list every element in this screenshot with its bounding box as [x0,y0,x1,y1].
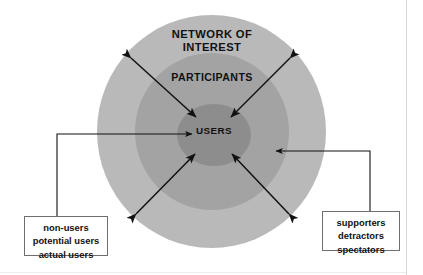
callout-box-right: supporters detractors spectators [322,211,400,251]
callout-left-line-1: non-users [30,221,102,234]
callout-right-line-1: supporters [328,216,394,229]
ring-label-users: USERS [176,126,252,137]
diagram-canvas: NETWORK OF INTEREST PARTICIPANTS USERS [0,0,423,275]
callout-right-line-2: detractors [328,229,394,242]
scan-edge-line-bottom [0,272,406,273]
ring-label-network-of-interest: NETWORK OF INTEREST [142,28,282,53]
callout-box-left: non-users potential users actual users [24,216,108,256]
callout-right-line-3: spectators [328,243,394,256]
callout-left-line-2: potential users [30,234,102,247]
scan-edge-line-right [406,0,407,275]
ring-label-participants: PARTICIPANTS [142,72,282,84]
callout-left-line-3: actual users [30,248,102,261]
